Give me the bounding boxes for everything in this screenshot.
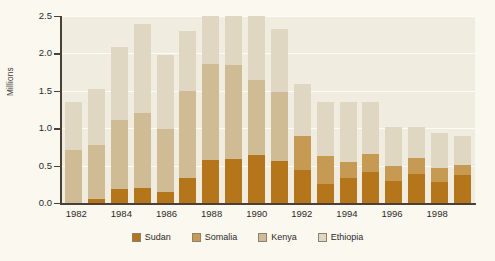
y-tick-label: 1.0 bbox=[26, 123, 52, 133]
bar-group[interactable] bbox=[88, 16, 105, 203]
bar-segment-ethiopia[interactable] bbox=[271, 29, 288, 93]
y-tick-label: 2.5 bbox=[26, 11, 52, 21]
bar-segment-kenya[interactable] bbox=[202, 64, 219, 161]
x-tick-label: 1988 bbox=[192, 209, 232, 219]
bar-series-container bbox=[61, 16, 475, 203]
y-tick-mark bbox=[54, 53, 61, 54]
bar-segment-kenya[interactable] bbox=[179, 91, 196, 179]
bar-segment-somalia[interactable] bbox=[431, 168, 448, 182]
bar-segment-sudan[interactable] bbox=[340, 178, 357, 203]
y-tick-mark bbox=[54, 128, 61, 129]
bar-group[interactable] bbox=[454, 16, 471, 203]
bar-segment-ethiopia[interactable] bbox=[111, 47, 128, 120]
y-tick-label: 0.0 bbox=[26, 198, 52, 208]
bar-group[interactable] bbox=[362, 16, 379, 203]
bar-group[interactable] bbox=[179, 16, 196, 203]
y-tick-mark bbox=[54, 203, 61, 204]
bar-segment-somalia[interactable] bbox=[385, 166, 402, 182]
bar-segment-somalia[interactable] bbox=[294, 136, 311, 170]
x-tick-label: 1990 bbox=[237, 209, 277, 219]
bar-segment-kenya[interactable] bbox=[111, 120, 128, 189]
bar-segment-kenya[interactable] bbox=[225, 65, 242, 159]
legend-label: Sudan bbox=[145, 233, 171, 242]
legend-item[interactable]: Somalia bbox=[192, 233, 238, 242]
bar-segment-sudan[interactable] bbox=[454, 175, 471, 203]
bar-segment-sudan[interactable] bbox=[225, 159, 242, 203]
bar-group[interactable] bbox=[317, 16, 334, 203]
bar-segment-somalia[interactable] bbox=[340, 162, 357, 178]
bar-segment-sudan[interactable] bbox=[111, 189, 128, 203]
bar-segment-somalia[interactable] bbox=[408, 158, 425, 174]
x-tick-label: 1982 bbox=[56, 209, 96, 219]
bar-segment-ethiopia[interactable] bbox=[317, 102, 334, 156]
y-tick-mark bbox=[54, 166, 61, 167]
bar-segment-sudan[interactable] bbox=[362, 172, 379, 203]
bar-segment-sudan[interactable] bbox=[294, 170, 311, 203]
bar-segment-sudan[interactable] bbox=[134, 188, 151, 203]
legend-item[interactable]: Kenya bbox=[258, 233, 297, 242]
bar-segment-sudan[interactable] bbox=[408, 174, 425, 203]
plot-area bbox=[61, 16, 475, 203]
bar-segment-ethiopia[interactable] bbox=[454, 136, 471, 165]
bar-segment-sudan[interactable] bbox=[431, 182, 448, 203]
bar-group[interactable] bbox=[431, 16, 448, 203]
bar-segment-ethiopia[interactable] bbox=[179, 31, 196, 91]
bar-segment-ethiopia[interactable] bbox=[340, 102, 357, 162]
bar-group[interactable] bbox=[248, 16, 265, 203]
x-tick-label: 1996 bbox=[372, 209, 412, 219]
bar-segment-ethiopia[interactable] bbox=[294, 84, 311, 136]
legend-swatch-icon bbox=[258, 233, 267, 242]
bar-group[interactable] bbox=[385, 16, 402, 203]
bar-segment-ethiopia[interactable] bbox=[134, 24, 151, 113]
bar-segment-ethiopia[interactable] bbox=[88, 89, 105, 144]
bar-segment-ethiopia[interactable] bbox=[248, 16, 265, 80]
bar-segment-ethiopia[interactable] bbox=[408, 127, 425, 158]
bar-segment-somalia[interactable] bbox=[317, 156, 334, 184]
y-tick-label: 1.5 bbox=[26, 86, 52, 96]
bar-segment-kenya[interactable] bbox=[248, 80, 265, 155]
bar-segment-kenya[interactable] bbox=[271, 92, 288, 161]
bar-segment-somalia[interactable] bbox=[362, 154, 379, 172]
y-tick-mark bbox=[54, 91, 61, 92]
x-tick-label: 1998 bbox=[417, 209, 457, 219]
bar-group[interactable] bbox=[134, 16, 151, 203]
y-tick-label-wrap: 0.0 bbox=[0, 198, 52, 208]
bar-segment-sudan[interactable] bbox=[157, 192, 174, 203]
y-axis-title: Millions bbox=[6, 67, 15, 96]
y-tick-mark bbox=[54, 16, 61, 17]
bar-group[interactable] bbox=[225, 16, 242, 203]
bar-segment-ethiopia[interactable] bbox=[385, 127, 402, 166]
bar-segment-ethiopia[interactable] bbox=[431, 133, 448, 167]
bar-segment-kenya[interactable] bbox=[65, 150, 82, 203]
x-tick-label: 1984 bbox=[101, 209, 141, 219]
bar-group[interactable] bbox=[271, 16, 288, 203]
bar-segment-ethiopia[interactable] bbox=[225, 16, 242, 65]
bar-segment-sudan[interactable] bbox=[248, 155, 265, 203]
bar-group[interactable] bbox=[408, 16, 425, 203]
bar-segment-sudan[interactable] bbox=[317, 184, 334, 203]
bar-group[interactable] bbox=[294, 16, 311, 203]
legend-label: Kenya bbox=[271, 233, 297, 242]
bar-segment-sudan[interactable] bbox=[202, 160, 219, 203]
x-axis-line bbox=[60, 203, 476, 205]
bar-group[interactable] bbox=[157, 16, 174, 203]
legend-item[interactable]: Ethiopia bbox=[318, 233, 364, 242]
bar-segment-ethiopia[interactable] bbox=[202, 16, 219, 64]
bar-segment-kenya[interactable] bbox=[134, 113, 151, 189]
bar-segment-ethiopia[interactable] bbox=[65, 102, 82, 150]
bar-segment-kenya[interactable] bbox=[157, 129, 174, 192]
bar-segment-ethiopia[interactable] bbox=[157, 55, 174, 129]
bar-segment-sudan[interactable] bbox=[271, 161, 288, 203]
bar-segment-somalia[interactable] bbox=[454, 165, 471, 175]
legend-swatch-icon bbox=[192, 233, 201, 242]
bar-segment-sudan[interactable] bbox=[179, 178, 196, 203]
bar-segment-kenya[interactable] bbox=[88, 145, 105, 199]
bar-segment-ethiopia[interactable] bbox=[362, 102, 379, 154]
bar-group[interactable] bbox=[65, 16, 82, 203]
bar-segment-sudan[interactable] bbox=[385, 181, 402, 203]
bar-group[interactable] bbox=[202, 16, 219, 203]
legend-item[interactable]: Sudan bbox=[132, 233, 171, 242]
y-axis-line bbox=[60, 16, 62, 204]
bar-group[interactable] bbox=[340, 16, 357, 203]
bar-group[interactable] bbox=[111, 16, 128, 203]
